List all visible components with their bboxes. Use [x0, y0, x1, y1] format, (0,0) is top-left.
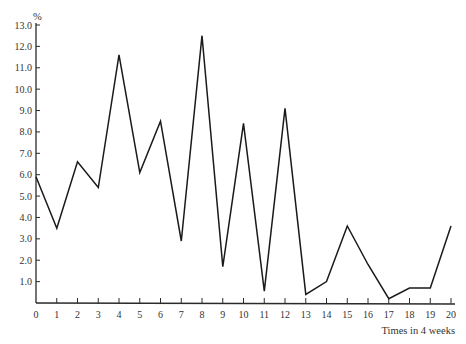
x-tick-label: 14 [322, 309, 332, 320]
x-tick-label: 0 [34, 309, 39, 320]
y-axis: 1.02.03.04.05.06.07.08.09.010.011.012.01… [15, 20, 41, 304]
y-tick-label: 11.0 [15, 62, 32, 73]
y-tick-label: 9.0 [20, 105, 33, 116]
y-tick-label: 8.0 [20, 126, 33, 137]
x-tick-label: 2 [75, 309, 80, 320]
x-tick-label: 9 [220, 309, 225, 320]
y-tick-label: 7.0 [20, 148, 33, 159]
y-tick-label: 4.0 [20, 212, 33, 223]
y-tick-label: 10.0 [15, 84, 33, 95]
x-tick-label: 4 [117, 309, 122, 320]
x-axis-line [36, 303, 455, 304]
x-tick-label: 5 [137, 309, 142, 320]
x-tick-label: 13 [301, 309, 311, 320]
x-tick-label: 17 [384, 309, 394, 320]
y-tick-label: 13.0 [15, 20, 33, 31]
x-tick-label: 19 [425, 309, 435, 320]
y-tick-label: 1.0 [20, 276, 33, 287]
x-tick-label: 20 [446, 309, 456, 320]
y-tick-label: 2.0 [20, 255, 33, 266]
x-tick-label: 18 [405, 309, 415, 320]
x-tick-label: 15 [342, 309, 352, 320]
y-tick-label: 12.0 [15, 41, 33, 52]
x-tick-label: 11 [259, 309, 269, 320]
y-tick-label: 6.0 [20, 169, 33, 180]
y-tick-label: 3.0 [20, 233, 33, 244]
y-axis-unit: % [33, 11, 42, 22]
x-tick-label: 10 [239, 309, 249, 320]
data-series-line [36, 36, 451, 299]
line-chart: 1.02.03.04.05.06.07.08.09.010.011.012.01… [0, 0, 466, 344]
x-axis-title: Times in 4 weeks [382, 325, 455, 336]
x-tick-label: 16 [363, 309, 373, 320]
x-tick-label: 7 [179, 309, 184, 320]
y-tick-label: 5.0 [20, 191, 33, 202]
x-tick-label: 3 [96, 309, 101, 320]
x-axis: 01234567891011121314151617181920 [34, 298, 457, 320]
x-tick-label: 1 [54, 309, 59, 320]
x-tick-label: 12 [280, 309, 290, 320]
x-tick-label: 8 [200, 309, 205, 320]
x-tick-label: 6 [158, 309, 163, 320]
